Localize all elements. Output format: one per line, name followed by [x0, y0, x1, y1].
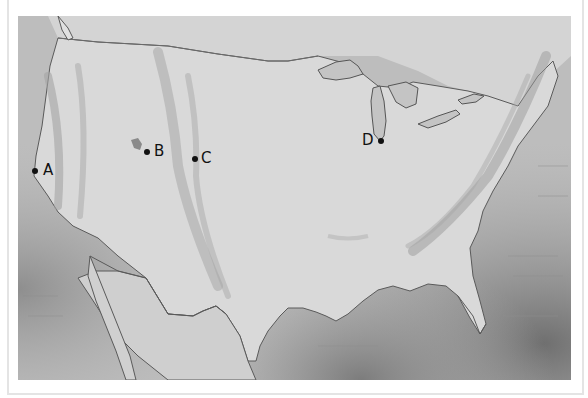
marker-c-dot[interactable]	[192, 156, 198, 162]
marker-a-label: A	[43, 163, 53, 178]
marker-c-label: C	[201, 151, 211, 166]
marker-b-label: B	[154, 144, 164, 159]
frame-border-left	[7, 0, 9, 395]
frame-border-right	[582, 0, 584, 395]
marker-a-dot[interactable]	[32, 168, 38, 174]
relief-map	[18, 16, 571, 380]
map-panel: A B C D	[18, 16, 571, 380]
marker-d-dot[interactable]	[378, 138, 384, 144]
marker-b-dot[interactable]	[144, 149, 150, 155]
frame-border-bottom	[7, 393, 584, 395]
marker-d-label: D	[362, 133, 374, 148]
